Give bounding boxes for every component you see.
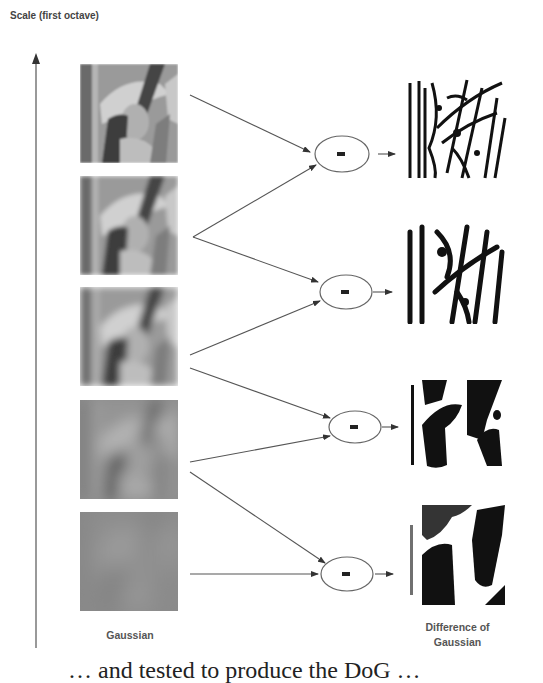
dog-label: Difference of Gaussian (395, 620, 520, 650)
gaussian-image-1 (80, 64, 178, 163)
subtract-operator-4 (321, 557, 373, 591)
gaussian-image-2 (80, 176, 178, 275)
subtract-operator-3 (329, 411, 381, 443)
subtract-operator-2 (320, 275, 372, 309)
subtract-operator-1 (315, 136, 369, 172)
dog-label-line1: Difference of (395, 620, 520, 635)
dog-image-3 (407, 380, 507, 486)
dog-label-line2: Gaussian (395, 635, 520, 650)
gaussian-image-4 (80, 400, 178, 499)
scale-axis-arrowhead-icon (32, 53, 40, 64)
dog-image-2 (407, 222, 507, 324)
gaussian-label: Gaussian (80, 628, 180, 643)
gaussian-image-3 (80, 287, 178, 386)
gaussian-image-5 (80, 512, 178, 611)
caption-fragment: … and tested to produce the DoG … (0, 658, 543, 682)
dog-image-1 (407, 78, 507, 182)
connector-arrows (190, 95, 398, 574)
dog-image-4 (407, 505, 507, 608)
